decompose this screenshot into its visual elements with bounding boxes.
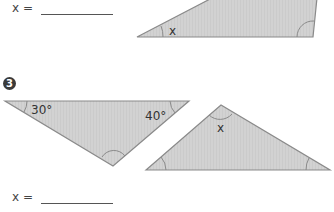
angle-label-x: x (169, 24, 176, 38)
angle-label-30: 30° (31, 103, 52, 117)
angle-label-40: 40° (145, 109, 166, 123)
angle-label-x: x (217, 121, 224, 135)
answer-blank-line[interactable] (41, 191, 113, 204)
triangle-exercise-2: x (137, 0, 317, 38)
geometry-figures: x 30° 40° x (0, 0, 334, 212)
answer-label: x = (12, 190, 33, 204)
answer-field-exercise-3[interactable]: x = (12, 190, 113, 204)
